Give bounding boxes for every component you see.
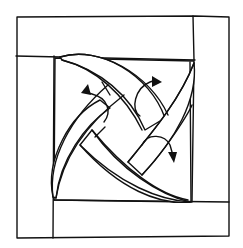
- woven-bands: [51, 54, 194, 202]
- woven-block-diagram: [0, 0, 243, 248]
- frame-strips: [16, 16, 229, 238]
- outer-frame: [17, 16, 229, 238]
